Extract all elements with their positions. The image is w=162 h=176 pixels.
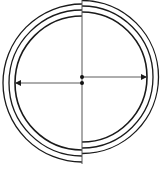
left-center-dot (80, 81, 84, 85)
offset-semicircle-rings-diagram (0, 0, 162, 176)
right-center-dot (80, 75, 84, 79)
